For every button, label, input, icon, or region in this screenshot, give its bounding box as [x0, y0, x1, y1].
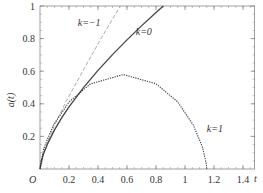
x-tick-label: 0.6: [121, 174, 134, 185]
y-tick-label: 0.2: [23, 131, 36, 142]
curve-label: k=−1: [78, 17, 101, 28]
x-tick-label: 1.4: [237, 174, 250, 185]
curve-label: k=0: [136, 26, 152, 37]
x-tick-label: 1: [183, 174, 188, 185]
x-axis-label: t: [254, 173, 257, 184]
labels: k=−1k=0k=1: [78, 17, 223, 134]
curve-label: k=1: [207, 123, 223, 134]
curves: [40, 6, 207, 169]
x-tick-label: 0.2: [63, 174, 76, 185]
origin-label: O: [29, 174, 36, 185]
y-axis-label: a(t): [5, 92, 17, 107]
curve-k-minus-1: [40, 6, 120, 169]
y-tick-label: 1: [30, 1, 35, 12]
curve-k-1: [40, 75, 207, 170]
x-tick-label: 0.4: [92, 174, 105, 185]
y-tick-label: 0.4: [23, 98, 36, 109]
y-tick-label: 0.6: [23, 66, 36, 77]
x-tick-label: 0.8: [150, 174, 163, 185]
chart: 0.20.40.60.811.21.40.20.40.60.81 k=−1k=0…: [0, 0, 263, 193]
x-tick-label: 1.2: [208, 174, 221, 185]
y-tick-label: 0.8: [23, 33, 36, 44]
